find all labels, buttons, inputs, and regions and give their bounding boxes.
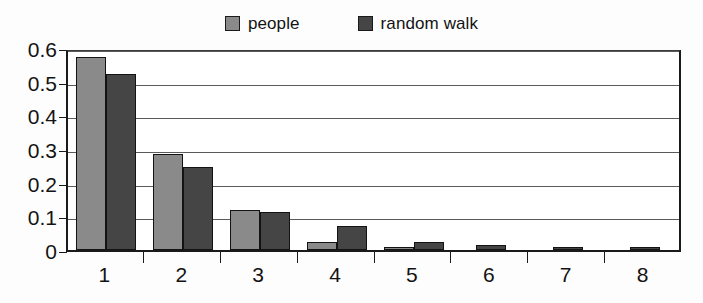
- bar-group: [452, 51, 529, 250]
- bars-layer: [68, 51, 679, 250]
- y-tick-label: 0.4: [28, 106, 57, 127]
- x-tick-mark: [220, 252, 221, 263]
- y-axis: 00.10.20.30.40.50.6: [0, 0, 57, 303]
- bar-random-walk-3: [260, 212, 290, 250]
- x-tick-label: 1: [84, 264, 124, 286]
- x-tick-label: 6: [469, 264, 509, 286]
- x-tick-label: 5: [392, 264, 432, 286]
- legend-entry-people: people: [225, 15, 300, 32]
- bar-group: [68, 51, 145, 250]
- bar-group: [606, 51, 683, 250]
- x-tick-label: 2: [161, 264, 201, 286]
- bar-people-3: [230, 210, 260, 250]
- legend-label-random-walk: random walk: [381, 15, 478, 32]
- y-tick-label: 0.3: [28, 140, 57, 161]
- bar-random-walk-1: [106, 74, 136, 250]
- bar-people-2: [153, 154, 183, 250]
- legend-label-people: people: [248, 15, 300, 32]
- plot-area: [66, 50, 681, 252]
- bar-random-walk-5: [414, 242, 444, 250]
- bar-group: [145, 51, 222, 250]
- x-tick-mark: [297, 252, 298, 263]
- bar-group: [376, 51, 453, 250]
- x-tick-label: 8: [623, 264, 663, 286]
- legend-entry-random-walk: random walk: [358, 15, 478, 32]
- x-tick-mark: [143, 252, 144, 263]
- bar-random-walk-7: [553, 247, 583, 250]
- bar-group: [529, 51, 606, 250]
- y-tick-label: 0.1: [28, 207, 57, 228]
- legend-swatch-random-walk-icon: [358, 16, 373, 31]
- bar-random-walk-4: [337, 226, 367, 250]
- bar-people-4: [307, 242, 337, 250]
- chart-legend: people random walk: [0, 10, 703, 36]
- y-tick-label: 0.5: [28, 73, 57, 94]
- bar-people-1: [76, 57, 106, 250]
- x-tick-label: 4: [315, 264, 355, 286]
- bar-group: [299, 51, 376, 250]
- bar-chart-figure: people random walk 00.10.20.30.40.50.6 1…: [0, 0, 703, 303]
- bar-random-walk-6: [476, 245, 506, 250]
- x-tick-label: 3: [238, 264, 278, 286]
- y-tick-label: 0.2: [28, 174, 57, 195]
- x-tick-mark: [527, 252, 528, 263]
- bar-group: [222, 51, 299, 250]
- x-tick-mark: [450, 252, 451, 263]
- y-tick-mark: [59, 252, 67, 253]
- bar-random-walk-8: [630, 247, 660, 250]
- bar-people-5: [384, 247, 414, 250]
- y-tick-label: 0: [45, 241, 57, 262]
- y-tick-label: 0.6: [28, 39, 57, 60]
- x-tick-mark: [604, 252, 605, 263]
- legend-swatch-people-icon: [225, 16, 240, 31]
- bar-random-walk-2: [183, 167, 213, 250]
- x-tick-mark: [374, 252, 375, 263]
- x-tick-label: 7: [546, 264, 586, 286]
